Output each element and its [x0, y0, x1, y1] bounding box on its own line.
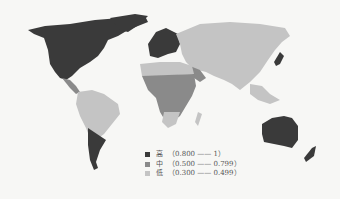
- legend-swatch-high: [145, 152, 150, 157]
- region-australia: [262, 116, 298, 148]
- region-central-america: [62, 78, 80, 94]
- legend-item-high: 高 （0.800 —— 1）: [145, 150, 241, 160]
- legend-label: 低: [156, 169, 168, 179]
- region-north-africa: [140, 62, 194, 76]
- region-madagascar: [195, 112, 202, 126]
- region-south-america-north: [76, 90, 120, 140]
- region-southeast-asia: [250, 84, 280, 104]
- legend-range: （0.300 —— 0.499）: [168, 169, 241, 179]
- legend-item-medium: 中 （0.500 —— 0.799）: [145, 160, 241, 170]
- region-southern-africa: [162, 112, 180, 128]
- legend-label: 高: [156, 150, 168, 160]
- legend-item-low: 低 （0.300 —— 0.499）: [145, 169, 241, 179]
- region-japan: [274, 52, 284, 66]
- legend-label: 中: [156, 160, 168, 170]
- legend-range: （0.500 —— 0.799）: [168, 160, 241, 170]
- region-new-zealand: [304, 146, 316, 162]
- legend-range: （0.800 —— 1）: [168, 150, 225, 160]
- region-europe: [148, 28, 180, 58]
- legend-swatch-medium: [145, 162, 150, 167]
- map-legend: 高 （0.800 —— 1） 中 （0.500 —— 0.799） 低 （0.3…: [145, 150, 241, 179]
- legend-swatch-low: [145, 171, 150, 176]
